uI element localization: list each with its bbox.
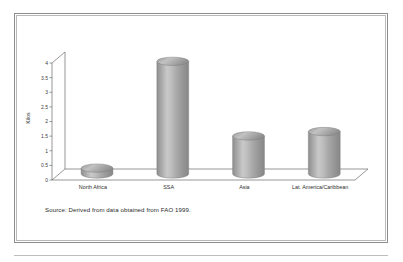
bar-cylinder — [157, 57, 189, 178]
x-axis-category-label: North Africa — [79, 184, 107, 190]
y-axis-tick-label: 3.5 — [41, 75, 48, 81]
x-axis-category-labels: North AfricaSSAAsiaLat. America/Caribbea… — [79, 184, 349, 190]
y-axis-tick-label: 4 — [45, 60, 48, 66]
y-axis-tick-label: 1.5 — [41, 133, 48, 139]
bar-body — [233, 136, 265, 178]
bar-top-cap — [81, 164, 113, 172]
bar-cylinder — [81, 164, 113, 178]
bar-top-cap — [308, 127, 340, 135]
bar-top-cap — [233, 132, 265, 140]
bar-cylinder — [308, 127, 340, 178]
x-axis-category-label: SSA — [163, 184, 174, 190]
y-axis-tick-label: 0.5 — [41, 162, 48, 168]
bar-chart-figure: 00.511.522.533.54 Kilos North AfricaSSAA… — [14, 13, 388, 243]
y-axis-tick-label: 3 — [45, 89, 48, 95]
bar-body — [157, 61, 189, 178]
bar-body — [308, 132, 340, 179]
bar-series — [81, 57, 340, 178]
y-axis-tick-label: 2 — [45, 118, 48, 124]
source-note: Source: Derived from data obtained from … — [45, 206, 191, 213]
bar-top-cap — [157, 57, 189, 65]
x-axis-category-label: Asia — [239, 184, 250, 190]
y-axis-title: Kilos — [25, 112, 31, 124]
bottom-divider — [14, 255, 388, 256]
y-axis-ticks: 00.511.522.533.54 — [41, 60, 52, 183]
y-axis-tick-label: 2.5 — [41, 104, 48, 110]
y-axis-wall — [52, 52, 65, 180]
y-axis-tick-label: 0 — [45, 177, 48, 183]
y-axis-tick-label: 1 — [45, 148, 48, 154]
bar-cylinder — [233, 132, 265, 178]
x-axis-category-label: Lat. America/Caribbean — [292, 184, 348, 190]
